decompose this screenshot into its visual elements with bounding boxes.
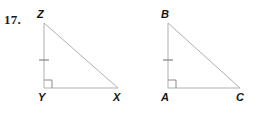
vertex-label-y: Y: [38, 92, 45, 103]
vertex-label-a: A: [161, 92, 169, 103]
vertex-label-x: X: [113, 92, 120, 103]
problem-figure-page: 17. Z Y X B A C: [0, 0, 261, 113]
right-angle-marker-a: [168, 80, 176, 88]
triangle-bac: [163, 23, 240, 88]
vertex-label-z: Z: [37, 9, 44, 20]
triangle-zyx: [39, 23, 118, 88]
vertex-label-c: C: [236, 92, 244, 103]
right-angle-marker-y: [44, 80, 52, 88]
segment-bc-hypotenuse: [168, 23, 240, 88]
vertex-label-b: B: [161, 9, 169, 20]
segment-zx-hypotenuse: [44, 23, 118, 88]
